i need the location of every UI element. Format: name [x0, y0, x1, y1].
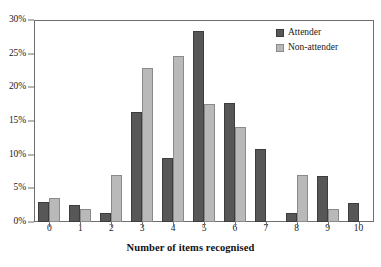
bar-group — [34, 20, 65, 222]
bar-attender-8 — [286, 213, 297, 222]
bar-non-attender-1 — [80, 209, 91, 222]
x-tick-mark — [359, 222, 360, 227]
x-tick-mark — [204, 222, 205, 227]
bar-attender-7 — [255, 149, 266, 222]
x-tick-mark — [266, 222, 267, 227]
y-tick-mark — [28, 222, 34, 223]
x-tick-mark — [142, 222, 143, 227]
bar-group — [96, 20, 127, 222]
x-tick-mark — [80, 222, 81, 227]
y-tick-label: 0% — [14, 217, 26, 227]
legend-label: Non-attender — [288, 43, 338, 53]
bar-group — [189, 20, 220, 222]
bar-group — [219, 20, 250, 222]
bar-group — [127, 20, 158, 222]
y-tick-label: 5% — [14, 184, 26, 194]
x-tick-mark — [235, 222, 236, 227]
y-tick-label: 10% — [9, 150, 26, 160]
legend: AttenderNon-attender — [276, 26, 338, 54]
bar-attender-6 — [224, 103, 235, 222]
x-tick-mark — [297, 222, 298, 227]
bar-attender-3 — [131, 112, 142, 222]
bar-non-attender-3 — [142, 68, 153, 222]
y-tick-label: 30% — [9, 15, 26, 25]
y-tick-mark — [28, 87, 34, 88]
bar-group — [343, 20, 374, 222]
y-tick-mark — [28, 53, 34, 54]
bar-group — [158, 20, 189, 222]
legend-swatch-icon — [276, 29, 284, 37]
x-tick-mark — [49, 222, 50, 227]
y-tick-mark — [28, 154, 34, 155]
bar-attender-10 — [348, 203, 359, 222]
bar-attender-1 — [69, 205, 80, 223]
bar-non-attender-0 — [49, 198, 60, 222]
legend-item-nonattender[interactable]: Non-attender — [276, 41, 338, 54]
legend-label: Attender — [288, 28, 321, 38]
y-axis: 0%5%10%15%20%25%30% — [0, 20, 30, 222]
x-tick-mark — [328, 222, 329, 227]
y-tick-mark — [28, 121, 34, 122]
bar-non-attender-6 — [235, 127, 246, 222]
y-tick-label: 15% — [9, 116, 26, 126]
bar-non-attender-4 — [173, 56, 184, 222]
x-tick-mark — [111, 222, 112, 227]
x-axis-title: Number of items recognised — [0, 242, 381, 253]
legend-swatch-icon — [276, 44, 284, 52]
y-tick-mark — [28, 20, 34, 21]
x-tick-mark — [173, 222, 174, 227]
bar-non-attender-8 — [297, 175, 308, 222]
y-tick-mark — [28, 188, 34, 189]
y-tick-label: 20% — [9, 83, 26, 93]
bar-non-attender-5 — [204, 104, 215, 223]
bar-attender-9 — [317, 176, 328, 222]
bar-attender-5 — [193, 31, 204, 222]
bar-attender-4 — [162, 158, 173, 222]
legend-item-attender[interactable]: Attender — [276, 26, 338, 39]
bar-non-attender-9 — [328, 209, 339, 222]
y-tick-label: 25% — [9, 49, 26, 59]
bar-group — [65, 20, 96, 222]
bar-non-attender-2 — [111, 175, 122, 222]
bar-attender-2 — [100, 213, 111, 222]
bar-chart: 0%5%10%15%20%25%30% 012345678910 Number … — [0, 0, 381, 267]
bar-attender-0 — [38, 202, 49, 222]
